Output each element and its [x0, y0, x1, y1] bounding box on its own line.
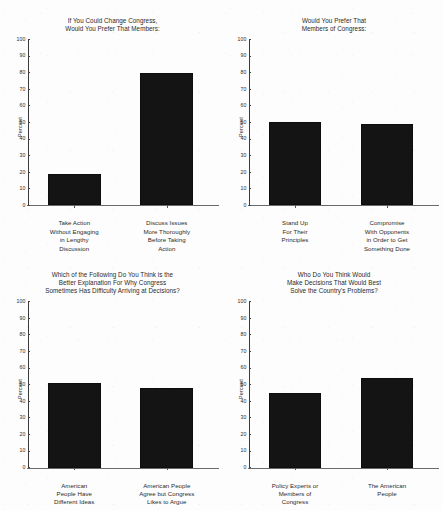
x-label-line: Different Ideas [30, 498, 119, 506]
x-axis-label: Take Action Without Engaging in Lengthy … [28, 219, 121, 253]
chart-title-line: Who Do You Think Would [231, 271, 437, 279]
chart-title-line: Sometimes Has Difficulty Arriving at Dec… [6, 287, 219, 295]
y-tick-label: 100 [238, 36, 247, 42]
bar[interactable] [269, 122, 321, 205]
chart-title-line: Which of the Following Do You Think is t… [6, 271, 219, 279]
y-tick-label: 30 [241, 414, 247, 420]
bar-series [28, 302, 213, 468]
y-tick-label: 0 [244, 464, 247, 470]
plot-area: Percent 100 90 80 70 60 50 40 30 20 10 [225, 302, 443, 477]
y-tick-label: 30 [20, 414, 26, 420]
y-tick-label: 50 [241, 381, 247, 387]
x-axis-label: American People Agree but Congress Likes… [121, 482, 214, 507]
bar-slot [28, 302, 121, 468]
x-tick-mark [167, 205, 168, 207]
x-axis-label: Policy Experts or Members of Congress [249, 482, 341, 507]
y-tick-label: 60 [20, 102, 26, 108]
chart-title-line: Better Explanation For Why Congress [6, 279, 219, 287]
x-label-line: Members of [251, 490, 339, 498]
axes: 100 90 80 70 60 50 40 30 20 10 0 [249, 302, 433, 477]
x-label-line: Something Done [343, 245, 431, 253]
chart-title: Which of the Following Do You Think is t… [0, 271, 225, 296]
y-tick-label: 70 [241, 348, 247, 354]
y-tick-label: 50 [20, 119, 26, 125]
bar[interactable] [48, 174, 101, 206]
y-tick-label: 30 [20, 152, 26, 158]
chart-panel-prefer-members-of-congress: Would You Prefer That Members of Congres… [225, 0, 443, 258]
y-tick-label: 60 [241, 102, 247, 108]
x-label-line: Likes to Argue [123, 498, 212, 506]
x-tick-mark [295, 468, 296, 470]
bar[interactable] [140, 388, 193, 468]
bar-series [28, 39, 213, 205]
y-tick-label: 20 [241, 169, 247, 175]
y-tick-label: 40 [241, 398, 247, 404]
chart-title: Who Do You Think Would Make Decisions Th… [225, 271, 443, 296]
chart-title: If You Could Change Congress, Would You … [0, 17, 225, 33]
bar[interactable] [140, 73, 193, 206]
bar-slot [121, 302, 214, 468]
x-axis-line [27, 205, 219, 206]
x-axis-line [27, 468, 219, 469]
y-tick-label: 90 [241, 52, 247, 58]
bar[interactable] [269, 393, 321, 468]
axes: 100 90 80 70 60 50 40 30 20 10 0 [28, 302, 213, 477]
y-tick-label: 20 [20, 169, 26, 175]
y-tick-label: 10 [241, 185, 247, 191]
bar[interactable] [48, 383, 101, 468]
x-tick-mark [74, 468, 75, 470]
y-tick-label: 0 [23, 202, 26, 208]
y-tick-label: 90 [20, 52, 26, 58]
x-axis-line [248, 205, 439, 206]
y-tick-label: 80 [20, 69, 26, 75]
x-label-line: For Their [251, 228, 339, 236]
x-axis-label: American People Have Different Ideas [28, 482, 121, 507]
y-tick-label: 10 [20, 185, 26, 191]
x-label-line: Discuss Issues [123, 219, 212, 227]
x-axis-labels: Take Action Without Engaging in Lengthy … [28, 219, 213, 253]
bar-slot [341, 302, 433, 468]
bar-slot [249, 302, 341, 468]
x-label-line: The American [343, 482, 431, 490]
y-tick-label: 0 [244, 202, 247, 208]
bar-slot [249, 39, 341, 205]
chart-panel-change-congress: If You Could Change Congress, Would You … [0, 0, 225, 258]
chart-title: Would You Prefer That Members of Congres… [225, 17, 443, 33]
x-tick-mark [387, 468, 388, 470]
y-tick-label: 80 [241, 69, 247, 75]
x-label-line: in Order to Get [343, 236, 431, 244]
bar[interactable] [361, 378, 413, 468]
x-label-line: American [30, 482, 119, 490]
chart-grid: If You Could Change Congress, Would You … [0, 0, 443, 511]
x-label-line: Congress [251, 498, 339, 506]
chart-title-line: Solve the Country's Problems? [231, 287, 437, 295]
chart-title-line: If You Could Change Congress, [6, 17, 219, 25]
plot-area: Percent 100 90 80 70 60 50 40 30 20 10 [0, 302, 225, 477]
y-tick-label: 40 [20, 398, 26, 404]
x-axis-label: Discuss Issues More Thoroughly Before Ta… [121, 219, 214, 253]
x-label-line: Compromise [343, 219, 431, 227]
x-tick-mark [387, 205, 388, 207]
chart-title-line: Would You Prefer That Members: [6, 25, 219, 33]
y-tick-label: 80 [241, 331, 247, 337]
axes: 100 90 80 70 60 50 40 30 20 10 0 [28, 39, 213, 214]
y-tick-label: 100 [17, 298, 26, 304]
y-tick-label: 20 [20, 431, 26, 437]
bar-series [249, 39, 433, 205]
chart-panel-who-solves-problems: Who Do You Think Would Make Decisions Th… [225, 258, 443, 511]
x-label-line: People Have [30, 490, 119, 498]
bar[interactable] [361, 124, 413, 205]
x-tick-mark [295, 205, 296, 207]
y-tick-label: 30 [241, 152, 247, 158]
x-axis-label: The American People [341, 482, 433, 507]
bar-slot [121, 39, 214, 205]
chart-title-line: Members of Congress: [231, 25, 437, 33]
chart-title-line: Would You Prefer That [231, 17, 437, 25]
y-tick-label: 10 [20, 447, 26, 453]
axes: 100 90 80 70 60 50 40 30 20 10 0 [249, 39, 433, 214]
x-label-line: People [343, 490, 431, 498]
y-tick-label: 50 [20, 381, 26, 387]
x-label-line: Policy Experts or [251, 482, 339, 490]
x-tick-mark [167, 468, 168, 470]
x-axis-line [248, 468, 439, 469]
